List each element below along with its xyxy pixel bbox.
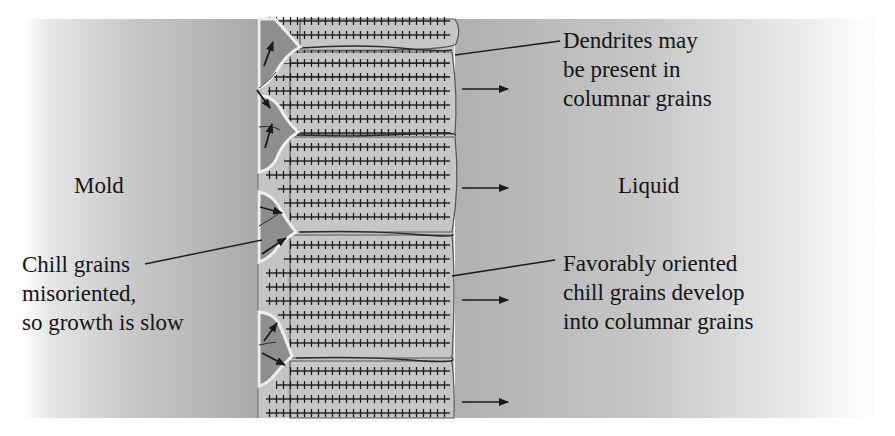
callout-line: into columnar grains xyxy=(563,307,753,336)
callout-line: Favorably oriented xyxy=(563,249,753,278)
callout-line: chill grains develop xyxy=(563,278,753,307)
callout-line: Dendrites may xyxy=(563,26,712,55)
callout-dendrites: Dendrites may be present in columnar gra… xyxy=(563,26,712,113)
callout-line: Chill grains xyxy=(22,250,184,279)
mold-label: Mold xyxy=(74,171,124,200)
callout-line: columnar grains xyxy=(563,84,712,113)
callout-chill-grains: Chill grains misoriented, so growth is s… xyxy=(22,250,184,337)
callout-line: so growth is slow xyxy=(22,308,184,337)
callout-line: be present in xyxy=(563,55,712,84)
solidification-diagram: Mold Liquid Dendrites may be present in … xyxy=(0,0,895,436)
callout-line: misoriented, xyxy=(22,279,184,308)
mold-region xyxy=(22,19,258,418)
diagram-graphic xyxy=(0,0,895,436)
callout-favorable-grains: Favorably oriented chill grains develop … xyxy=(563,249,753,336)
liquid-label: Liquid xyxy=(618,171,679,200)
